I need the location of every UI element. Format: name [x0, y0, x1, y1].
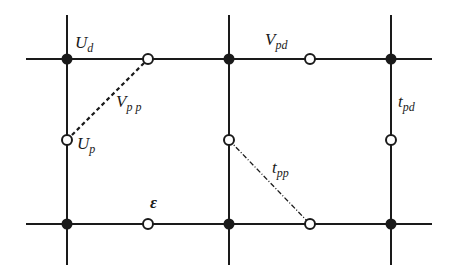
d-site — [386, 54, 397, 65]
p-site — [143, 219, 153, 229]
p-site — [305, 219, 315, 229]
lattice-diagram: Ud Up Vp p Vpd tpd tpp ε — [0, 0, 458, 279]
p-site — [143, 54, 153, 64]
label-ud: Ud — [75, 33, 94, 55]
tpp-bond — [229, 140, 310, 224]
p-site — [224, 135, 234, 145]
p-site — [62, 135, 72, 145]
label-epsilon: ε — [150, 193, 157, 212]
d-site — [224, 219, 235, 230]
d-site — [62, 54, 73, 65]
d-site — [386, 219, 397, 230]
label-vpd: Vpd — [265, 30, 288, 52]
p-site — [386, 135, 396, 145]
label-vpp: Vp p — [116, 92, 141, 114]
label-up: Up — [77, 134, 95, 156]
p-site — [305, 54, 315, 64]
d-site — [224, 54, 235, 65]
d-site — [62, 219, 73, 230]
label-tpd: tpd — [398, 92, 416, 114]
label-tpp: tpp — [272, 158, 289, 180]
